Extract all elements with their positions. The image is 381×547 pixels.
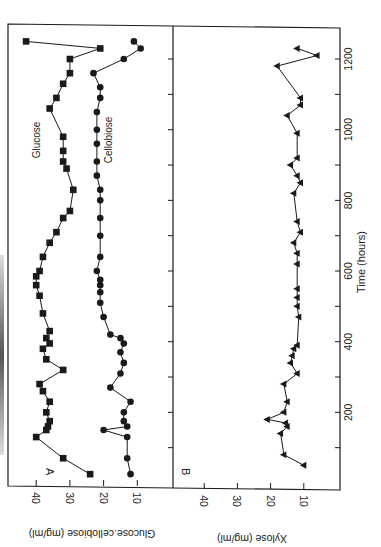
triangle-marker [293,260,300,267]
triangle-marker [293,303,300,310]
square-marker [60,158,67,165]
x-tick-label: 400 [342,333,354,351]
circle-marker [94,141,101,148]
square-marker [87,471,94,478]
x-tick-label: 1000 [342,118,354,142]
circle-marker [124,455,131,462]
square-marker [43,409,50,416]
circle-marker [97,197,104,204]
circle-marker [100,427,107,434]
circle-marker [97,254,104,261]
square-marker [40,310,47,317]
circle-marker [121,418,128,425]
square-marker [67,208,74,215]
triangle-marker [293,294,300,301]
square-marker [43,335,50,342]
circle-marker [94,109,101,116]
circle-marker [97,277,104,284]
triangle-marker [290,190,297,197]
square-marker [40,388,47,395]
square-marker [60,80,67,87]
triangle-marker [300,462,307,469]
triangle-marker [280,409,287,416]
square-marker [43,356,50,363]
axes: 101020203030404020040060080010001200 [30,47,354,507]
x-tick-label: 600 [342,262,354,280]
square-marker [70,186,77,193]
triangle-marker [282,419,289,426]
triangle-marker [293,172,300,179]
square-marker [97,45,104,52]
circle-marker [94,172,101,179]
circle-marker [97,232,104,239]
triangle-marker [273,63,280,70]
xylose-series [263,45,319,469]
circle-marker [117,349,124,356]
circle-marker [121,409,128,416]
triangle-marker [296,94,303,101]
square-marker [46,418,53,425]
square-marker [60,455,67,462]
y-axis-label-a: Glucose.cellobiose (mg/ml) [29,528,156,540]
circle-marker [117,370,124,377]
glucose-label: Glucose [31,121,42,158]
y-axis-label-b: Xylose (mg/ml) [217,533,287,545]
circle-marker [97,186,104,193]
square-marker [46,398,53,405]
square-marker [36,268,43,275]
triangle-marker [293,45,300,52]
square-marker [46,105,53,112]
square-marker [40,254,47,261]
square-marker [36,381,43,388]
x-tick-label: 200 [342,403,354,421]
square-marker [60,148,67,155]
circle-marker [127,471,134,478]
square-marker [33,434,40,441]
circle-marker [121,360,128,367]
y-tick-label-a: 20 [98,492,110,504]
circle-marker [127,398,134,405]
square-marker [53,95,60,102]
triangle-marker [287,162,294,169]
y-tick-label-b: 30 [231,495,243,507]
figure: 101020203030404020040060080010001200 A B… [0,0,381,547]
y-tick-label-b: 10 [298,495,310,507]
circle-marker [137,45,144,52]
circle-marker [97,215,104,222]
circle-marker [94,158,101,165]
triangle-marker [277,430,284,437]
square-marker [60,133,67,140]
triangle-marker [263,416,270,423]
x-tick-label: 1200 [342,47,354,71]
circle-marker [90,70,97,77]
square-marker [33,282,40,289]
circle-marker [131,38,138,45]
triangle-marker [283,112,290,119]
panel-a [23,38,144,477]
circle-marker [121,56,128,63]
triangle-marker [313,52,320,59]
square-marker [67,56,74,63]
square-marker [63,165,70,172]
circle-marker [107,331,114,338]
y-tick-label-a: 10 [131,492,143,504]
circle-marker [97,84,104,91]
y-tick-label-a: 40 [30,492,42,504]
x-axis-label: Time (hours) [355,231,367,293]
triangle-marker [293,130,300,137]
cellobiose-series [90,38,144,477]
circle-marker [94,268,101,275]
y-tick-label-b: 40 [198,495,210,507]
square-marker [46,328,53,335]
cellobiose-label: Cellobiose [103,116,114,163]
panel-b [263,45,319,469]
square-marker [46,239,53,246]
square-marker [40,345,47,352]
square-marker [60,367,67,374]
y-tick-label-b: 20 [265,495,277,507]
x-tick-label: 800 [342,191,354,209]
circle-marker [97,95,104,102]
square-marker [67,70,74,77]
triangle-marker [290,239,297,246]
panel-a-label: A [44,468,56,476]
